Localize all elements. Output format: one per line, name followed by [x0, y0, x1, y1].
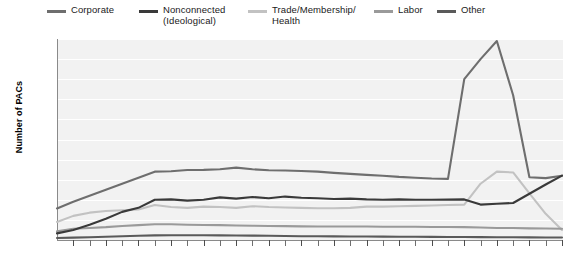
x-tick-mark [399, 240, 400, 246]
x-tick-mark [562, 240, 563, 246]
x-tick-mark [204, 240, 205, 246]
x-tick-mark [171, 240, 172, 246]
legend-item-corporate: Corporate [47, 4, 114, 15]
x-tick-mark [481, 240, 482, 246]
x-tick-mark [252, 240, 253, 246]
x-tick-mark [285, 240, 286, 246]
x-tick-mark [350, 240, 351, 246]
legend-item-labor: Labor [374, 4, 423, 15]
legend-line-nonconnected-icon [139, 10, 158, 13]
legend-item-other: Other [437, 4, 485, 15]
x-tick-mark [220, 240, 221, 246]
series-container [57, 39, 562, 240]
x-tick-mark [318, 240, 319, 246]
x-tick-mark [269, 240, 270, 246]
legend-label: Nonconnected(Ideological) [163, 4, 225, 26]
legend-line-other-icon [437, 10, 456, 13]
series-line-labor [57, 224, 562, 231]
x-tick-mark [236, 240, 237, 246]
x-tick-mark [301, 240, 302, 246]
x-axis-tick-labels [0, 248, 568, 264]
x-tick-mark [187, 240, 188, 246]
y-axis-tick-labels [0, 0, 55, 268]
x-tick-mark [367, 240, 368, 246]
legend-item-nonconnected: Nonconnected(Ideological) [139, 4, 225, 26]
x-tick-mark [155, 240, 156, 246]
pac-line-chart: CorporateNonconnected(Ideological)Trade/… [0, 0, 568, 268]
legend-label: Labor [398, 4, 423, 15]
x-tick-mark [546, 240, 547, 246]
x-tick-mark [513, 240, 514, 246]
legend-label: Trade/Membership/Health [272, 4, 356, 26]
x-tick-mark [497, 240, 498, 246]
x-tick-mark [448, 240, 449, 246]
x-tick-mark [334, 240, 335, 246]
x-tick-mark [432, 240, 433, 246]
chart-legend: CorporateNonconnected(Ideological)Trade/… [0, 4, 568, 32]
legend-line-labor-icon [374, 10, 393, 13]
x-tick-mark [415, 240, 416, 246]
x-tick-mark [122, 240, 123, 246]
x-tick-mark [106, 240, 107, 246]
x-tick-mark [383, 240, 384, 246]
x-tick-mark [90, 240, 91, 246]
x-axis-tick-marks [57, 240, 562, 247]
x-tick-mark [138, 240, 139, 246]
legend-item-trade: Trade/Membership/Health [248, 4, 356, 26]
legend-label: Corporate [71, 4, 114, 15]
series-line-corporate [57, 41, 562, 208]
x-tick-mark [73, 240, 74, 246]
legend-label: Other [461, 4, 485, 15]
x-tick-mark [529, 240, 530, 246]
x-tick-mark [464, 240, 465, 246]
legend-line-trade-icon [248, 10, 267, 13]
series-line-other [57, 235, 562, 238]
